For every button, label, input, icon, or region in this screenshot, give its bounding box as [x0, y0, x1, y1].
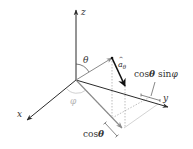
x-axis-label: x [17, 109, 22, 119]
theta-label: θ [83, 55, 89, 65]
projection-to-y-line [124, 104, 158, 128]
cos-theta-label: cosθ [83, 129, 104, 139]
cos-theta-sin-phi-label: cosθsinφ [134, 69, 178, 79]
y-axis-label: y [162, 93, 169, 103]
phi-arc [66, 88, 86, 93]
x-axis [27, 80, 76, 120]
r-vector [76, 58, 112, 80]
z-axis-label: z [80, 7, 86, 17]
leader-line [151, 82, 155, 96]
cos-theta-sin-phi-bracket [141, 82, 160, 102]
a-theta-hat: ^ [119, 55, 124, 62]
phi-label: φ [70, 96, 77, 106]
cos-theta-bracket [104, 122, 119, 138]
spherical-coordinates-diagram: z x y θ φ aθ ^ cosθsinφ cosθ [0, 0, 193, 149]
theta-arc [76, 64, 89, 72]
